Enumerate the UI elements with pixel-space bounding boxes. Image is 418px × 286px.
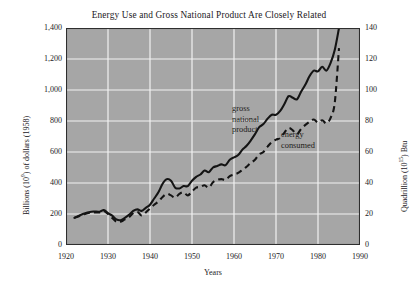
chart-title: Energy Use and Gross National Product Ar… — [0, 10, 418, 20]
x-axis-tick: 1990 — [340, 252, 380, 261]
y-axis-left-tick: 800 — [26, 116, 62, 125]
y-axis-right-tick: 100 — [365, 85, 401, 94]
y-axis-right-tick: 0 — [365, 240, 401, 249]
x-axis-tick: 1950 — [172, 252, 212, 261]
y-axis-left-tick: 1,200 — [26, 54, 62, 63]
x-axis-label: Years — [66, 268, 360, 277]
x-axis-tick: 1980 — [298, 252, 338, 261]
y-axis-left-tick: 0 — [26, 240, 62, 249]
y-axis-left-label: Billions (109) of dollars (1958) — [22, 116, 31, 215]
y-axis-left-tick: 1,000 — [26, 85, 62, 94]
y-axis-right-tick: 40 — [365, 178, 401, 187]
plot-area — [66, 28, 360, 245]
y-axis-left-tick: 1,400 — [26, 23, 62, 32]
annotation-gnp-line-3: product — [232, 125, 259, 136]
annotation-gnp-line-1: gross — [232, 104, 259, 115]
y-axis-left-tick: 600 — [26, 147, 62, 156]
y-axis-right-tick: 120 — [365, 54, 401, 63]
y-axis-left-tick: 200 — [26, 209, 62, 218]
y-axis-right-tick: 60 — [365, 147, 401, 156]
y-axis-left-tick: 400 — [26, 178, 62, 187]
annotation-gnp-line-2: national — [232, 115, 259, 126]
plot-svg — [66, 28, 360, 245]
x-axis-tick: 1940 — [130, 252, 170, 261]
y-axis-right-tick: 20 — [365, 209, 401, 218]
y-axis-right-label: Quadrillion (1015) Btu — [400, 141, 409, 212]
plot-background — [66, 28, 360, 245]
annotation-gross-national-product: gross national product — [232, 104, 259, 136]
x-axis-tick: 1970 — [256, 252, 296, 261]
y-axis-right-tick: 140 — [365, 23, 401, 32]
annotation-energy-line-2: consumed — [281, 141, 315, 152]
y-axis-right-tick: 80 — [365, 116, 401, 125]
x-axis-tick: 1960 — [214, 252, 254, 261]
x-axis-tick: 1930 — [88, 252, 128, 261]
annotation-energy-line-1: energy — [281, 130, 315, 141]
x-axis-tick: 1920 — [46, 252, 86, 261]
annotation-energy-consumed: energy consumed — [281, 130, 315, 151]
chart-figure: Energy Use and Gross National Product Ar… — [0, 0, 418, 286]
